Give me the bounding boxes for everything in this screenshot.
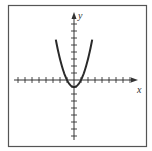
y-axis-label: y <box>77 10 83 21</box>
graph-canvas: x y <box>0 0 152 151</box>
graph-frame <box>9 6 147 147</box>
x-axis-label: x <box>136 84 142 95</box>
